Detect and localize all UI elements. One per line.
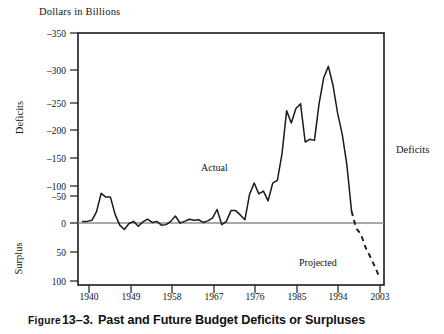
- ytick-label: 50: [57, 248, 67, 258]
- caption-number: 13–3.: [61, 313, 93, 327]
- figure-container: Dollars in Billions –350 –300 –250 –200 …: [0, 0, 444, 334]
- right-axis-label-deficits: Deficits: [396, 144, 429, 155]
- left-axis-label-surplus: Surplus: [13, 229, 24, 289]
- chart-plot: –350 –300 –250 –200 –150 –100 –50 0 50 1…: [0, 0, 444, 300]
- xtick-label: 1958: [163, 292, 182, 300]
- ytick-label: –300: [46, 66, 66, 76]
- ytick-label: –250: [46, 99, 66, 109]
- ytick-label: 100: [52, 277, 67, 287]
- plot-frame: [78, 33, 384, 285]
- caption-figure-word: Figure: [28, 315, 61, 326]
- xtick-label: 1985: [288, 292, 307, 300]
- y-axis-ticks: [70, 33, 78, 281]
- xtick-label: 1976: [246, 292, 265, 300]
- left-axis-label-deficits: Deficits: [14, 88, 25, 148]
- annotation-projected: Projected: [299, 257, 337, 268]
- caption-text: Past and Future Budget Deficits or Surpl…: [93, 313, 365, 327]
- y-axis-tick-labels: –350 –300 –250 –200 –150 –100 –50 0 50 1…: [46, 29, 66, 287]
- figure-caption: Figure13–3.Past and Future Budget Defici…: [28, 313, 365, 327]
- x-axis-tick-labels: 1940 1949 1958 1967 1976 1985 1994 2003: [80, 292, 390, 300]
- ytick-label: 0: [61, 219, 66, 229]
- ytick-label: –100: [46, 182, 66, 192]
- xtick-label: 1949: [122, 292, 141, 300]
- xtick-label: 2003: [371, 292, 390, 300]
- xtick-label: 1994: [329, 292, 348, 300]
- ytick-label: –200: [46, 126, 66, 136]
- ytick-label: –150: [46, 154, 66, 164]
- ytick-label: –350: [46, 29, 66, 39]
- annotation-actual: Actual: [201, 162, 228, 173]
- xtick-label: 1967: [205, 292, 224, 300]
- ytick-label: –50: [51, 192, 67, 202]
- xtick-label: 1940: [80, 292, 99, 300]
